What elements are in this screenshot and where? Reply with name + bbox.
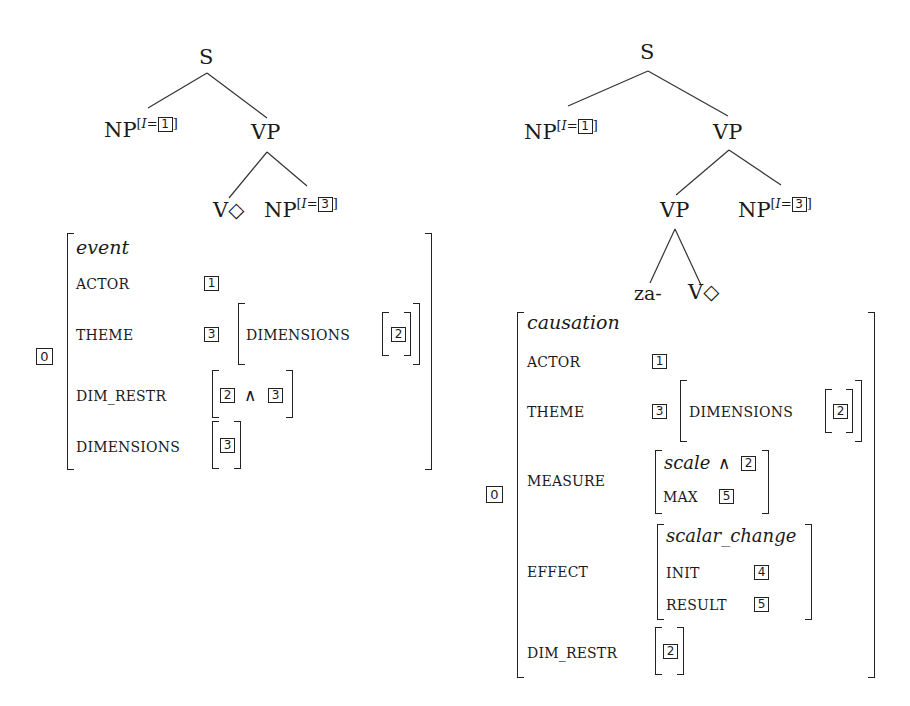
- inner-right-bracket: [404, 312, 411, 356]
- inner-right-bracket: [805, 524, 812, 620]
- inner-right-bracket: [846, 389, 853, 433]
- left-tree-np-object: NP[I=3]: [264, 200, 338, 221]
- inner-left-bracket: [382, 312, 389, 356]
- effect-type: scalar_change: [666, 527, 796, 545]
- value-tag: 1: [652, 354, 667, 369]
- inner-left-bracket: [680, 380, 687, 442]
- left-tree-np-subject: NP[I=1]: [104, 120, 178, 141]
- inner-left-bracket: [825, 389, 832, 433]
- avm-right-bracket: [425, 233, 432, 470]
- avm-left-bracket: [67, 233, 74, 470]
- inner-left-bracket: [655, 627, 662, 675]
- feature-actor: ACTOR: [527, 355, 580, 369]
- inner-right-bracket: [762, 450, 769, 514]
- left-tree-vp-node: VP: [251, 122, 280, 143]
- avm-left-bracket: [517, 312, 524, 678]
- inner-right-bracket: [677, 627, 684, 675]
- avm-type: causation: [527, 313, 620, 332]
- feature-theme: THEME: [76, 328, 133, 342]
- feature-effect: EFFECT: [527, 565, 588, 579]
- feature-measure: MEASURE: [527, 474, 605, 488]
- coindex-tag: 1: [578, 119, 593, 134]
- feature-actor: ACTOR: [76, 277, 129, 291]
- conjunction-operator: ∧: [244, 385, 256, 405]
- value-tag: 2: [741, 456, 756, 471]
- inner-right-bracket: [413, 303, 420, 365]
- left-tree-verb-node: V◇: [213, 200, 244, 221]
- right-tree-prefix-node: za-: [634, 284, 662, 303]
- inner-left-bracket: [212, 370, 219, 418]
- inner-feature: DIMENSIONS: [246, 328, 350, 342]
- inner-left-bracket: [238, 303, 245, 365]
- feature-result: RESULT: [666, 598, 727, 612]
- value-tag: 5: [719, 489, 734, 504]
- avm-type: event: [76, 238, 129, 257]
- inner-right-bracket: [234, 421, 241, 469]
- value-tag: 3: [268, 388, 283, 403]
- feature-theme: THEME: [527, 405, 584, 419]
- coindex-tag: 3: [792, 197, 807, 212]
- inner-left-bracket: [212, 421, 219, 469]
- coindex-tag: 1: [158, 117, 173, 132]
- feature-dim-restr: DIM_RESTR: [527, 646, 617, 660]
- right-tree-np-subject: NP[I=1]: [524, 122, 598, 143]
- feature-dimensions: DIMENSIONS: [76, 440, 180, 454]
- right-tree-s-node: S: [640, 42, 654, 63]
- inner-left-bracket: [657, 524, 664, 620]
- tree-branches: [0, 0, 910, 706]
- value-tag: 2: [220, 388, 235, 403]
- inner-feature: DIMENSIONS: [689, 405, 793, 419]
- inner-right-bracket: [855, 380, 862, 442]
- avm-tag: 0: [36, 348, 53, 365]
- value-tag: 4: [754, 565, 769, 580]
- inner-right-bracket: [286, 370, 293, 418]
- left-tree-s-node: S: [199, 47, 213, 68]
- value-tag: 3: [220, 438, 235, 453]
- inner-left-bracket: [655, 450, 662, 514]
- value-tag: 5: [754, 597, 769, 612]
- feature-dim-restr: DIM_RESTR: [76, 389, 166, 403]
- scale-type: scale: [664, 454, 710, 472]
- avm-tag: 0: [486, 486, 503, 503]
- avm-right-bracket: [868, 312, 875, 678]
- feature-init: INIT: [666, 566, 699, 580]
- right-tree-np-object: NP[I=3]: [738, 200, 812, 221]
- feature-max: MAX: [663, 490, 698, 504]
- conjunction-operator: ∧: [718, 453, 730, 473]
- coindex-tag: 3: [318, 197, 333, 212]
- value-tag: 2: [663, 644, 678, 659]
- right-tree-vp-node: VP: [713, 122, 742, 143]
- right-tree-inner-vp-node: VP: [660, 200, 689, 221]
- value-tag: 3: [204, 327, 219, 342]
- value-tag: 1: [204, 276, 219, 291]
- right-tree-verb-node: V◇: [688, 282, 719, 303]
- value-tag: 3: [652, 404, 667, 419]
